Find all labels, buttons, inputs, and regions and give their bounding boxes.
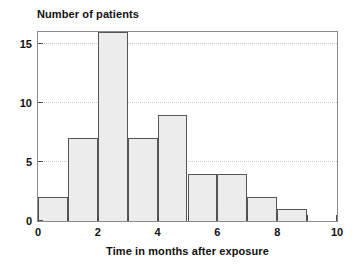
x-axis-tick (158, 215, 159, 221)
x-axis-tick-labels: 0246810 (37, 226, 338, 242)
x-axis-tick-label: 6 (214, 226, 220, 238)
y-axis-tick-label: 15 (20, 38, 32, 50)
x-axis-tick (128, 215, 129, 221)
y-axis-tick (38, 43, 43, 44)
y-axis-tick (38, 161, 43, 162)
x-axis-tick (98, 215, 99, 221)
x-axis-tick (217, 215, 218, 221)
gridline (38, 43, 337, 44)
histogram-bar (217, 174, 247, 221)
x-axis-tick-label: 8 (274, 226, 280, 238)
histogram-bar (128, 138, 158, 221)
x-axis-tick (68, 215, 69, 221)
x-axis-tick-label: 4 (155, 226, 161, 238)
y-axis-tick (38, 220, 43, 221)
y-axis-tick-label: 10 (20, 97, 32, 109)
histogram-bar (98, 32, 128, 221)
plot-inner (38, 32, 337, 221)
histogram-bar (188, 174, 218, 221)
histogram-chart: Number of patients 051015 0246810 Time i… (0, 0, 360, 268)
histogram-bar (277, 209, 307, 221)
x-axis-tick (307, 215, 308, 221)
x-axis-tick-label: 2 (95, 226, 101, 238)
x-axis-tick (188, 215, 189, 221)
x-axis-tick (336, 215, 337, 221)
gridline (38, 102, 337, 103)
x-axis-tick (277, 215, 278, 221)
y-axis-tick (38, 102, 43, 103)
histogram-bar (38, 197, 68, 221)
y-axis-tick-label: 5 (26, 156, 32, 168)
histogram-bar (68, 138, 98, 221)
y-axis-title: Number of patients (37, 8, 139, 20)
x-axis-tick (247, 215, 248, 221)
plot-area (37, 31, 338, 222)
x-axis-tick-label: 10 (331, 226, 343, 238)
x-axis-title: Time in months after exposure (37, 245, 338, 257)
x-axis-tick-label: 0 (35, 226, 41, 238)
histogram-bar (247, 197, 277, 221)
y-axis-tick-label: 0 (26, 215, 32, 227)
histogram-bar (158, 115, 188, 221)
y-axis-tick-labels: 051015 (8, 31, 32, 222)
